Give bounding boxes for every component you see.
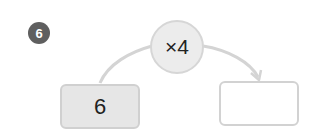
- operation-circle: ×4: [150, 20, 204, 74]
- input-box: 6: [60, 84, 140, 129]
- left-connector-line: [100, 46, 152, 83]
- input-value: 6: [94, 94, 106, 120]
- operation-label: ×4: [165, 35, 189, 59]
- answer-box[interactable]: [219, 81, 299, 126]
- right-connector-line: [203, 46, 258, 77]
